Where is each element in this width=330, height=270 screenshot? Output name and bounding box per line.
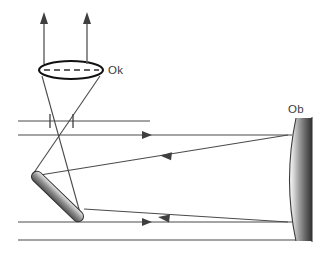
cone-edge-right (33, 76, 100, 174)
arrowhead-up-right (83, 12, 91, 24)
optics-diagram-svg: Ok Ob (0, 0, 330, 270)
label-eyepiece: Ok (108, 64, 123, 76)
ray-reflected-lower (84, 209, 288, 222)
arrowhead-up-left (40, 12, 48, 24)
label-objective: Ob (288, 103, 304, 115)
diagonal-mirror-body (29, 169, 86, 224)
arrowhead-right-upper (142, 131, 152, 139)
exit-rays-group (40, 12, 91, 64)
eyepiece-lens (39, 61, 103, 79)
arrowhead-right-lower (142, 218, 152, 226)
diagonal-mirror (29, 169, 86, 224)
ray-diagram-figure: Ok Ob (0, 0, 330, 270)
arrowhead-left-upper (160, 152, 172, 160)
objective-mirror (290, 117, 313, 242)
arrowhead-left-lower (158, 214, 170, 222)
